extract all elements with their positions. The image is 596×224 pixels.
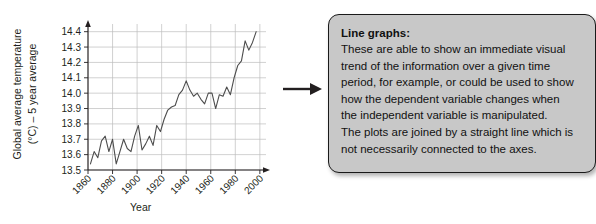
- y-tick-label: 13.5: [62, 165, 82, 176]
- temperature-series-line: [90, 32, 256, 164]
- y-tick-label: 13.9: [62, 103, 82, 114]
- callout-heading: Line graphs:: [341, 25, 585, 41]
- x-axis-ticks: 18601880190019201940196019802000: [70, 170, 266, 196]
- x-tick-label: 1880: [94, 172, 118, 196]
- callout-body: These are able to show an immediate visu…: [341, 41, 585, 157]
- x-tick-label: 1860: [70, 172, 94, 196]
- right-arrow-icon: [282, 78, 324, 100]
- x-tick-label: 1960: [193, 172, 217, 196]
- x-tick-label: 1900: [119, 172, 143, 196]
- y-tick-label: 14.2: [62, 57, 82, 68]
- callout-line: trend of the information over a given ti…: [341, 58, 585, 75]
- y-tick-label: 14.1: [62, 72, 82, 83]
- x-axis-title: Year: [130, 201, 151, 213]
- x-tick-label: 1980: [217, 172, 241, 196]
- y-tick-label: 14.4: [62, 26, 82, 37]
- x-tick-label: 2000: [242, 172, 266, 196]
- y-tick-label: 14.0: [62, 88, 82, 99]
- chart-plot-area: 13.513.613.713.813.914.014.114.214.314.4…: [0, 0, 290, 200]
- y-tick-label: 13.8: [62, 118, 82, 129]
- line-graphs-callout: Line graphs: These are able to show an i…: [328, 14, 596, 173]
- x-tick-label: 1940: [168, 172, 192, 196]
- callout-line: These are able to show an immediate visu…: [341, 41, 585, 58]
- y-tick-label: 13.7: [62, 134, 82, 145]
- y-tick-label: 13.6: [62, 149, 82, 160]
- y-axis-ticks: 13.513.613.713.813.914.014.114.214.314.4: [62, 26, 88, 175]
- chart-axes: [85, 20, 270, 173]
- callout-line: The plots are joined by a straight line …: [341, 124, 585, 141]
- callout-line: how the dependent variable changes when: [341, 91, 585, 108]
- x-tick-label: 1920: [144, 172, 168, 196]
- chart-gridlines: [88, 24, 266, 170]
- y-tick-label: 14.3: [62, 42, 82, 53]
- line-chart-figure: Global average temperature (°C) – 5 year…: [0, 0, 290, 224]
- callout-line: not necessarily connected to the axes.: [341, 141, 585, 158]
- callout-line: period, for example, or could be used to…: [341, 74, 585, 91]
- callout-line: the independent variable is manipulated.: [341, 107, 585, 124]
